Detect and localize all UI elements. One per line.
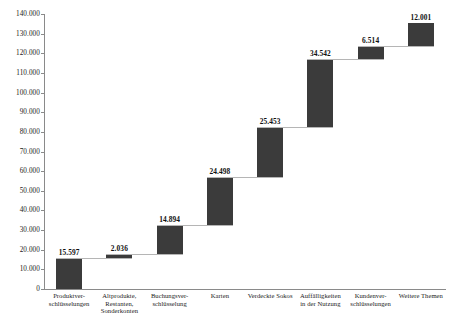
y-tick-mark	[41, 73, 44, 74]
y-tick-label: 70.000	[2, 148, 40, 156]
y-tick-mark	[41, 112, 44, 113]
waterfall-connector	[106, 254, 182, 255]
y-tick-label: 80.000	[2, 128, 40, 136]
waterfall-connector	[307, 59, 383, 60]
bar-value-label: 14.894	[145, 215, 195, 224]
x-category-label: Verdeckte Sokos	[245, 292, 295, 300]
y-tick-mark	[41, 269, 44, 270]
y-tick-mark	[41, 191, 44, 192]
y-tick-mark	[41, 210, 44, 211]
y-tick-label: 20.000	[2, 246, 40, 254]
y-tick-label: 0	[2, 285, 40, 293]
bar-value-label: 15.597	[44, 248, 94, 257]
waterfall-bar	[358, 46, 384, 59]
y-tick-mark	[41, 152, 44, 153]
bar-value-label: 6.514	[346, 36, 396, 45]
y-tick-label: 90.000	[2, 108, 40, 116]
y-tick-label: 110.000	[2, 69, 40, 77]
bar-value-label: 2.036	[94, 244, 144, 253]
y-tick-label: 100.000	[2, 89, 40, 97]
y-tick-label: 30.000	[2, 226, 40, 234]
waterfall-chart: 140.000130.000120.000110.000100.00090.00…	[0, 0, 454, 325]
y-tick-label: 140.000	[2, 10, 40, 18]
waterfall-connector	[257, 127, 333, 128]
x-category-label: Kundenver- schlüsselungen	[346, 292, 396, 307]
waterfall-connector	[157, 225, 233, 226]
x-category-label: Karten	[195, 292, 245, 300]
y-tick-mark	[41, 14, 44, 15]
bar-value-label: 12.001	[396, 13, 446, 22]
waterfall-connector	[358, 46, 434, 47]
y-tick-label: 40.000	[2, 206, 40, 214]
x-category-label: Auffälligkeiten in der Nutzung	[295, 292, 345, 307]
y-tick-label: 130.000	[2, 30, 40, 38]
y-tick-label: 60.000	[2, 167, 40, 175]
y-tick-mark	[41, 93, 44, 94]
x-category-label: Produktver- schlüsselungen	[44, 292, 94, 307]
bar-value-label: 24.498	[195, 167, 245, 176]
waterfall-connector	[207, 177, 283, 178]
waterfall-bar	[207, 177, 233, 225]
x-category-label: Buchungsver- schlüsselung	[145, 292, 195, 307]
waterfall-bar	[257, 127, 283, 177]
bar-value-label: 25.453	[245, 117, 295, 126]
waterfall-connector	[56, 258, 132, 259]
y-tick-label: 10.000	[2, 265, 40, 273]
x-category-label: Altprodukte, Restanten, Sonderkonten	[94, 292, 144, 315]
bar-value-label: 34.542	[295, 49, 345, 58]
waterfall-bar	[307, 59, 333, 127]
waterfall-bar	[408, 23, 434, 47]
x-axis-line	[44, 289, 446, 290]
y-tick-label: 120.000	[2, 49, 40, 57]
y-tick-mark	[41, 53, 44, 54]
plot-area: 140.000130.000120.000110.000100.00090.00…	[44, 14, 446, 289]
y-tick-label: 50.000	[2, 187, 40, 195]
waterfall-bar	[157, 225, 183, 254]
y-tick-mark	[41, 34, 44, 35]
y-tick-mark	[41, 132, 44, 133]
waterfall-bar	[56, 258, 82, 289]
x-category-label: Weitere Themen	[396, 292, 446, 300]
y-tick-mark	[41, 289, 44, 290]
y-tick-mark	[41, 171, 44, 172]
y-tick-mark	[41, 230, 44, 231]
